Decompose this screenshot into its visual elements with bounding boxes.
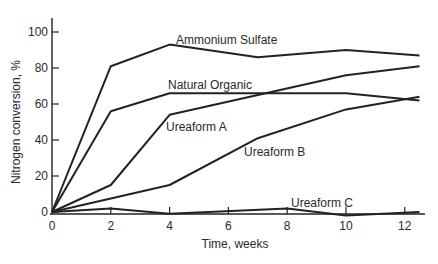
x-tick-label: 10 xyxy=(339,219,353,233)
x-tick-label: 2 xyxy=(107,219,114,233)
label-ureaform-b: Ureaform B xyxy=(244,145,305,159)
x-axis-title: Time, weeks xyxy=(202,237,269,251)
y-tick-label: 100 xyxy=(28,25,48,39)
x-tick-label: 4 xyxy=(166,219,173,233)
x-tick-label: 0 xyxy=(49,219,56,233)
label-natural-organic: Natural Organic xyxy=(168,78,252,92)
series-line-natural-organic xyxy=(52,93,420,212)
y-tick-label: 0 xyxy=(41,205,48,219)
label-ammonium-sulfate: Ammonium Sulfate xyxy=(176,33,278,47)
x-tick-label: 12 xyxy=(398,219,412,233)
x-tick-label: 8 xyxy=(284,219,291,233)
y-tick-label: 40 xyxy=(35,133,49,147)
y-axis-title: Nitrogen conversion, % xyxy=(9,60,23,184)
label-ureaform-a: Ureaform A xyxy=(166,120,227,134)
series-lines xyxy=(52,45,420,216)
y-tick-label: 80 xyxy=(35,61,49,75)
x-tick-label: 6 xyxy=(225,219,232,233)
y-tick-label: 60 xyxy=(35,97,49,111)
label-ureaform-c: Ureaform C xyxy=(291,196,353,210)
line-chart: 020406080100 024681012 Nitrogen conversi… xyxy=(0,0,438,264)
series-line-ureaform-b xyxy=(52,97,420,212)
y-axis: 020406080100 xyxy=(28,18,59,219)
y-tick-label: 20 xyxy=(35,169,49,183)
